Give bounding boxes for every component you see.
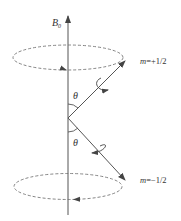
state-label-minus-half: m=−1/2 — [140, 175, 167, 185]
upper-angle-arc — [68, 104, 78, 108]
b0-label: B0 — [52, 17, 61, 29]
state-label-plus-half: m=+1/2 — [140, 56, 167, 66]
spin-precession-diagram: B0 θ θ m=+1/2 m=−1/2 — [0, 0, 181, 221]
upper-theta-label: θ — [73, 90, 78, 101]
lower-theta-label: θ — [73, 137, 78, 148]
lower-angle-arc — [68, 128, 78, 132]
spin-vector-down — [68, 118, 125, 180]
